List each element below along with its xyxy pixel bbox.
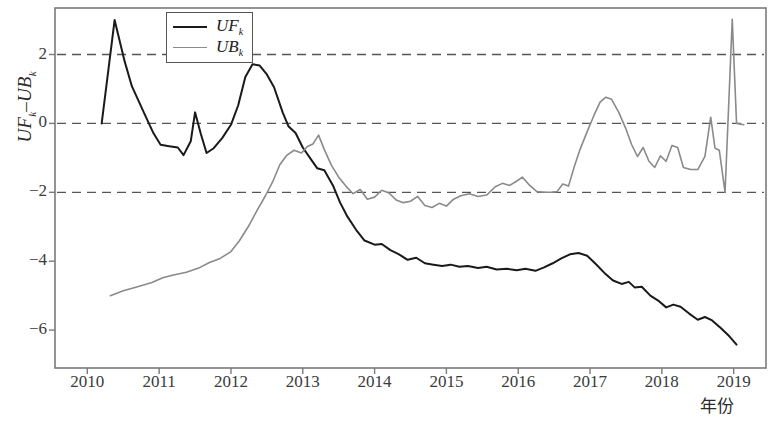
legend-item-ufk: UFk [173, 16, 243, 37]
y-tick-label: −2 [3, 181, 47, 201]
x-tick-label: 2013 [273, 372, 333, 392]
x-tick-label: 2010 [57, 372, 117, 392]
x-tick-label: 2017 [560, 372, 620, 392]
x-tick-label: 2014 [345, 372, 405, 392]
x-tick-label: 2012 [201, 372, 261, 392]
y-tick-label: 2 [3, 44, 47, 64]
legend-label-ufk: UFk [216, 16, 243, 37]
chart-legend: UFk UBk [166, 12, 253, 63]
chart-figure: UFk–UBk 20102011201220132014201520162017… [0, 0, 775, 421]
y-axis-label-term2: UBk [14, 71, 35, 102]
plot-area [0, 0, 775, 421]
x-tick-label: 2019 [704, 372, 764, 392]
y-axis-label-dash: – [14, 102, 35, 112]
y-tick-label: −6 [3, 319, 47, 339]
reference-lines-group [57, 55, 764, 193]
y-tick-label: 0 [3, 112, 47, 132]
legend-item-ubk: UBk [173, 37, 243, 58]
legend-swatch-ufk [173, 26, 207, 28]
axes-group [55, 8, 766, 368]
x-axis-label: 年份 [700, 392, 734, 417]
x-tick-label: 2018 [632, 372, 692, 392]
legend-label-ubk: UBk [216, 37, 243, 58]
x-tick-label: 2016 [488, 372, 548, 392]
y-tick-label: −4 [3, 250, 47, 270]
axis-ticks-group [49, 55, 734, 374]
x-tick-label: 2011 [129, 372, 189, 392]
legend-swatch-ubk [173, 47, 207, 48]
x-tick-label: 2015 [416, 372, 476, 392]
data-series-group [102, 19, 744, 344]
